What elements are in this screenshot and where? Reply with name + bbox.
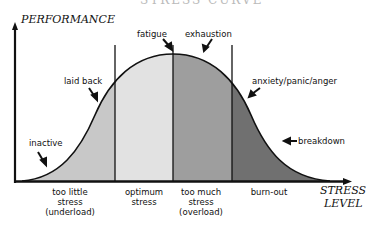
zone-label-optimum: optimum stress <box>125 187 163 207</box>
annotation-anxiety: anxiety/panic/anger <box>252 76 337 86</box>
annotation-exhaustion: exhaustion <box>185 29 232 39</box>
annotation-inactive: inactive <box>29 138 63 148</box>
zone-overload-fill <box>173 40 232 181</box>
zone-label-burnout: burn-out <box>251 187 288 197</box>
annotation-laid-back: laid back <box>64 76 102 86</box>
zone-underload-fill <box>15 40 115 181</box>
zone-optimum-fill <box>115 40 173 181</box>
zone-label-underload: too little stress (underload) <box>45 187 95 217</box>
annotation-fatigue: fatigue <box>137 29 167 39</box>
y-axis-label: PERFORMANCE <box>21 14 115 26</box>
annotation-breakdown: breakdown <box>298 136 345 146</box>
zone-label-overload: too much stress (overload) <box>179 187 223 217</box>
y-axis-arrow-icon <box>12 22 18 30</box>
x-axis-label-line2: LEVEL <box>324 198 363 210</box>
x-axis-label-line1: STRESS <box>320 185 366 197</box>
curve-fill <box>15 40 342 181</box>
